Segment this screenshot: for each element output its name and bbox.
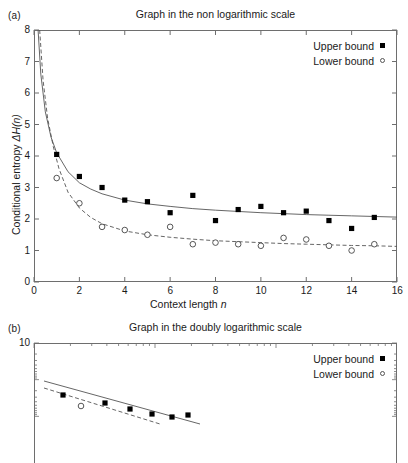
open-circle-icon	[380, 371, 385, 376]
x-tick-2: 2	[71, 285, 87, 296]
x-axis-title-text: Context length	[150, 298, 221, 310]
panel-b-legend: Upper bound Lower bound	[250, 351, 385, 381]
legend-item-lower-bound: Lower bound	[250, 53, 385, 68]
legend-label-upper-bound: Upper bound	[313, 40, 374, 52]
panel-b: (b) Graph in the doubly logarithmic scal…	[0, 310, 408, 419]
legend-item-lower-bound-b: Lower bound	[250, 366, 385, 381]
y-axis-title-italic: ΔH(n)	[10, 114, 22, 141]
legend-item-upper-bound-b: Upper bound	[250, 351, 385, 366]
legend-label-upper-bound-b: Upper bound	[313, 353, 374, 365]
x-tick-4: 4	[117, 285, 133, 296]
x-axis-title: Context length n	[150, 298, 226, 310]
y-tick-8: 8	[12, 24, 30, 35]
panel-a-legend: Upper bound Lower bound	[250, 38, 385, 68]
y-tick-1: 1	[12, 245, 30, 256]
y-axis-title: Conditional entropy ΔH(n)	[10, 114, 22, 235]
x-tick-6: 6	[162, 285, 178, 296]
panel-b-y-tick-10: 10	[10, 337, 30, 348]
filled-square-icon	[380, 356, 385, 361]
legend-label-lower-bound-b: Lower bound	[313, 368, 374, 380]
panel-a: (a) Graph in the non logarithmic scale 8…	[0, 0, 408, 310]
x-tick-16: 16	[389, 285, 405, 296]
legend-item-upper-bound: Upper bound	[250, 38, 385, 53]
x-axis-title-italic: n	[221, 298, 227, 310]
filled-square-icon	[380, 43, 385, 48]
legend-label-lower-bound: Lower bound	[313, 55, 374, 67]
x-tick-12: 12	[298, 285, 314, 296]
y-tick-7: 7	[12, 56, 30, 67]
x-tick-0: 0	[26, 285, 42, 296]
x-tick-8: 8	[208, 285, 224, 296]
y-tick-6: 6	[12, 87, 30, 98]
y-axis-title-text: Conditional entropy	[10, 142, 22, 235]
x-tick-10: 10	[253, 285, 269, 296]
open-circle-icon	[380, 58, 385, 63]
x-tick-14: 14	[344, 285, 360, 296]
